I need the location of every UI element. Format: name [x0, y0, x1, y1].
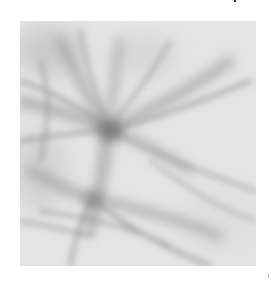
scan-speck — [268, 273, 269, 278]
micrograph-image — [20, 21, 256, 266]
fiber-network-graphic — [20, 21, 256, 266]
scan-speck — [234, 0, 236, 2]
